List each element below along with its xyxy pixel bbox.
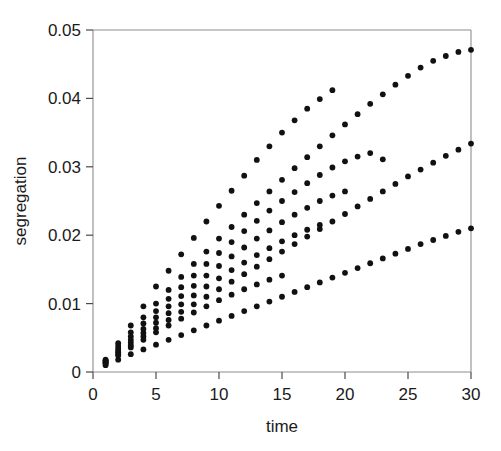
data-point <box>292 165 298 171</box>
data-point <box>317 198 323 204</box>
data-point <box>279 198 285 204</box>
data-point <box>317 280 323 286</box>
data-point <box>178 284 184 290</box>
data-point <box>178 251 184 257</box>
data-point <box>204 219 210 225</box>
data-point <box>267 299 273 305</box>
y-axis-title: segregation <box>11 157 30 246</box>
data-point <box>355 111 361 117</box>
data-point <box>166 317 172 323</box>
data-point <box>229 254 235 260</box>
data-point <box>267 208 273 214</box>
data-point <box>468 141 474 147</box>
data-point <box>241 245 247 251</box>
data-point <box>191 327 197 333</box>
x-tick-label: 30 <box>462 385 481 404</box>
data-point <box>204 261 210 267</box>
data-point <box>254 252 260 258</box>
data-point <box>115 357 121 363</box>
data-point <box>216 275 222 281</box>
data-point <box>342 121 348 127</box>
data-point <box>279 177 285 183</box>
data-point <box>178 309 184 315</box>
y-tick-label: 0.02 <box>48 226 81 245</box>
data-point <box>166 268 172 274</box>
series-series-8 <box>103 225 474 368</box>
y-tick-label: 0 <box>72 363 81 382</box>
data-point <box>393 251 399 257</box>
data-point <box>304 234 310 240</box>
y-tick-labels: 00.010.020.030.040.05 <box>48 21 81 382</box>
data-point <box>191 310 197 316</box>
data-point <box>216 263 222 269</box>
data-point <box>304 180 310 186</box>
data-point <box>279 273 285 279</box>
data-point <box>204 323 210 329</box>
chart-figure: 00.010.020.030.040.05 051015202530 time … <box>0 0 501 451</box>
data-point <box>216 250 222 256</box>
data-point <box>468 225 474 231</box>
data-point <box>330 165 336 171</box>
data-point <box>380 256 386 262</box>
series-series-5 <box>103 222 323 365</box>
data-point <box>254 157 260 163</box>
data-point <box>279 130 285 136</box>
x-tick-label: 5 <box>151 385 160 404</box>
data-point <box>216 286 222 292</box>
data-point <box>418 167 424 173</box>
data-point <box>279 249 285 255</box>
data-point <box>393 82 399 88</box>
data-point <box>355 265 361 271</box>
data-point <box>317 172 323 178</box>
data-point <box>166 303 172 309</box>
data-point <box>304 227 310 233</box>
data-point <box>178 332 184 338</box>
data-point <box>241 173 247 179</box>
data-point <box>166 287 172 293</box>
data-point <box>405 246 411 252</box>
data-point <box>342 211 348 217</box>
data-point <box>317 226 323 232</box>
scatter-plot: 00.010.020.030.040.05 051015202530 time … <box>0 0 501 451</box>
data-point <box>153 320 159 326</box>
data-point <box>141 347 147 353</box>
data-point <box>330 87 336 93</box>
data-point <box>405 73 411 79</box>
data-point <box>430 237 436 243</box>
data-point <box>355 154 361 160</box>
data-point <box>128 323 134 329</box>
data-point <box>153 301 159 307</box>
x-tick-label: 0 <box>88 385 97 404</box>
data-point <box>191 292 197 298</box>
data-point <box>418 241 424 247</box>
data-point <box>191 261 197 267</box>
data-point <box>267 143 273 149</box>
data-point <box>254 218 260 224</box>
data-points-layer <box>103 47 474 368</box>
data-point <box>141 321 147 327</box>
data-point <box>468 47 474 53</box>
data-point <box>279 219 285 225</box>
data-point <box>380 189 386 195</box>
data-point <box>153 284 159 290</box>
data-point <box>191 301 197 307</box>
data-point <box>279 294 285 300</box>
data-point <box>267 228 273 234</box>
data-point <box>178 293 184 299</box>
data-point <box>330 275 336 281</box>
data-point <box>254 236 260 242</box>
data-point <box>254 303 260 309</box>
data-point <box>241 271 247 277</box>
data-point <box>456 229 462 235</box>
data-point <box>229 224 235 230</box>
data-point <box>304 154 310 160</box>
data-point <box>418 65 424 71</box>
data-point <box>229 313 235 319</box>
data-point <box>241 228 247 234</box>
data-point <box>330 132 336 138</box>
data-point <box>380 91 386 97</box>
data-point <box>204 284 210 290</box>
data-point <box>153 308 159 314</box>
data-point <box>367 150 373 156</box>
data-point <box>141 303 147 309</box>
